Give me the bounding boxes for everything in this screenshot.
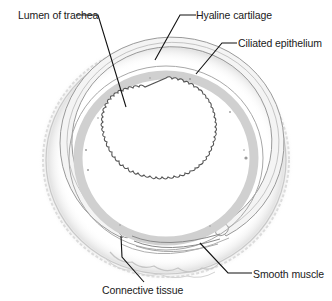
- label-ciliated-epithelium: Ciliated epithelium: [238, 37, 322, 49]
- label-smooth-muscle: Smooth muscle: [253, 268, 324, 280]
- label-connective-tissue: Connective tissue: [102, 284, 183, 296]
- label-lumen-of-trachea: Lumen of trachea: [18, 9, 98, 21]
- label-hyaline-cartilage: Hyaline cartilage: [196, 9, 272, 21]
